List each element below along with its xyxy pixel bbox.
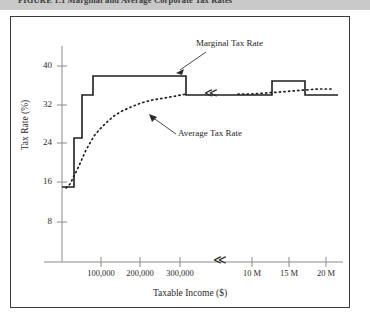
figure-caption: FIGURE 1.1 Marginal and Average Corporat… [18, 0, 232, 5]
figure-caption-strip: FIGURE 1.1 Marginal and Average Corporat… [0, 0, 370, 10]
figure-page: FIGURE 1.1 Marginal and Average Corporat… [0, 0, 370, 322]
figure-frame [10, 16, 350, 308]
